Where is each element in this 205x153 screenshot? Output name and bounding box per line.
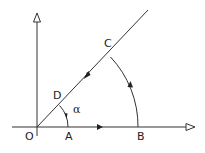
diagram-canvas: O A B C D α [0,0,205,153]
label-o: O [25,130,34,143]
label-alpha: α [73,103,81,116]
x-axis-arrow-icon [186,124,195,131]
ray-oc [37,10,148,127]
y-axis-arrow-icon [34,13,41,22]
label-d: D [53,89,61,102]
label-c: C [104,37,112,50]
label-b: B [137,130,145,143]
direction-arrow-ab-icon [97,124,103,130]
label-a: A [65,130,73,143]
arc-bc [111,57,139,127]
